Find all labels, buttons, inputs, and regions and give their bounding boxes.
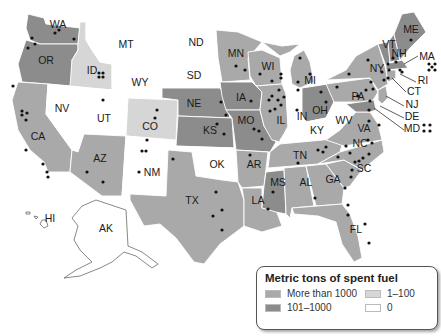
swatch-101-1000 (265, 304, 281, 312)
label-SC: SC (357, 162, 372, 174)
label-WV: WV (336, 114, 353, 126)
label-MA: MA (419, 50, 435, 62)
legend-item-1-100: 1–100 (365, 288, 435, 299)
state-DE[interactable] (376, 100, 380, 110)
legend-label: 0 (387, 302, 393, 313)
leader-NJ (386, 96, 404, 106)
legend: Metric tons of spent fuel More than 1000… (256, 266, 438, 330)
label-WA: WA (50, 18, 67, 30)
label-GA: GA (325, 173, 340, 185)
label-MD: MD (404, 122, 421, 134)
label-MO: MO (238, 114, 255, 126)
legend-item-0: 0 (365, 302, 435, 313)
label-LA: LA (252, 194, 265, 206)
label-NE: NE (187, 97, 202, 109)
swatch-1-100 (365, 290, 381, 298)
label-MI: MI (304, 74, 316, 86)
label-KY: KY (310, 124, 324, 136)
label-NJ: NJ (406, 98, 419, 110)
label-VA: VA (357, 122, 370, 134)
label-OK: OK (209, 158, 224, 170)
label-NC: NC (352, 137, 368, 149)
label-IA: IA (236, 91, 246, 103)
leader-DE (380, 106, 404, 118)
label-AR: AR (247, 158, 262, 170)
label-CA: CA (31, 130, 46, 142)
label-MS: MS (270, 176, 286, 188)
label-SD: SD (187, 69, 202, 81)
legend-label: 101–1000 (287, 302, 332, 313)
legend-item-101-1000: 101–1000 (265, 302, 365, 313)
legend-item-more-than-1000: More than 1000 (265, 288, 365, 299)
label-MT: MT (118, 38, 134, 50)
label-TX: TX (185, 194, 198, 206)
label-OH: OH (312, 104, 328, 116)
legend-label: More than 1000 (287, 288, 357, 299)
label-TN: TN (293, 149, 307, 161)
legend-title: Metric tons of spent fuel (265, 272, 429, 284)
label-ND: ND (188, 36, 204, 48)
label-HI: HI (45, 212, 56, 224)
label-CT: CT (407, 85, 422, 97)
label-WY: WY (132, 76, 149, 88)
label-AK: AK (99, 222, 113, 234)
label-AZ: AZ (93, 152, 107, 164)
label-DE: DE (405, 110, 420, 122)
swatch-0 (365, 304, 381, 312)
label-WI: WI (262, 60, 275, 72)
label-ME: ME (403, 23, 419, 35)
label-KS: KS (203, 124, 217, 136)
label-IN: IN (297, 110, 308, 122)
label-ID: ID (87, 64, 98, 76)
label-AL: AL (300, 176, 313, 188)
label-NM: NM (144, 166, 160, 178)
label-MN: MN (228, 47, 244, 59)
label-CO: CO (142, 120, 158, 132)
label-NV: NV (55, 102, 70, 114)
label-OR: OR (38, 54, 54, 66)
state-CO[interactable] (126, 98, 178, 140)
legend-label: 1–100 (387, 288, 415, 299)
swatch-more-than-1000 (265, 290, 281, 298)
label-IL: IL (277, 114, 286, 126)
leader-CT (392, 78, 406, 92)
label-UT: UT (97, 112, 112, 124)
leader-RI (400, 74, 416, 82)
label-FL: FL (350, 223, 362, 235)
